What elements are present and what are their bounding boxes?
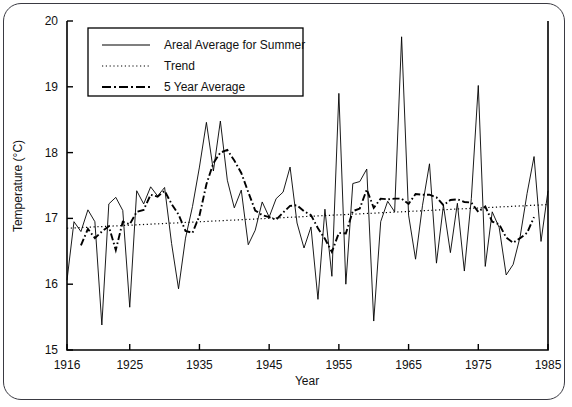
y-tick-label: 15 (45, 343, 59, 357)
temperature-line-chart: 1916192519351945195519651975198515161718… (0, 0, 572, 407)
y-tick-label: 18 (45, 146, 59, 160)
legend-label: Areal Average for Summer (164, 38, 305, 52)
x-tick-label: 1935 (186, 358, 213, 372)
y-tick-label: 20 (45, 14, 59, 28)
x-tick-label: 1945 (256, 358, 283, 372)
x-tick-label: 1965 (395, 358, 422, 372)
y-tick-label: 16 (45, 277, 59, 291)
y-tick-label: 17 (45, 211, 59, 225)
x-tick-label: 1985 (535, 358, 562, 372)
legend-label: 5 Year Average (164, 80, 246, 94)
y-axis-title: Temperature (°C) (11, 140, 25, 232)
chart-container: 1916192519351945195519651975198515161718… (0, 0, 572, 407)
x-tick-label: 1916 (54, 358, 81, 372)
x-tick-label: 1955 (326, 358, 353, 372)
legend-label: Trend (164, 59, 195, 73)
chart-legend: Areal Average for SummerTrend5 Year Aver… (88, 28, 305, 96)
y-tick-label: 19 (45, 80, 59, 94)
x-tick-label: 1925 (116, 358, 143, 372)
x-axis-title: Year (295, 374, 319, 388)
x-tick-label: 1975 (465, 358, 492, 372)
